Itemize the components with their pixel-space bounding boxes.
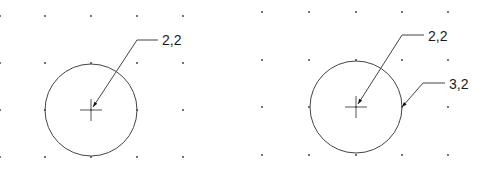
grid-dot <box>182 109 184 111</box>
cad-drawing-canvas: 2,2 2,2 3,2 <box>0 0 481 195</box>
grid-dot <box>401 59 403 61</box>
grid-dot <box>0 62 1 64</box>
leader-label-left-2-2: 2,2 <box>162 32 182 48</box>
grid-dot <box>401 11 403 13</box>
leader-right-2-2[interactable]: 2,2 <box>358 28 448 104</box>
grid-dot <box>136 62 138 64</box>
grid-dot <box>182 156 184 158</box>
grid-dot <box>308 59 310 61</box>
center-mark-left-icon <box>80 99 102 121</box>
grid-dot <box>136 156 138 158</box>
grid-dot <box>447 59 449 61</box>
drawing-svg: 2,2 2,2 3,2 <box>0 0 481 195</box>
left-panel: 2,2 <box>0 15 184 158</box>
center-mark-right-icon <box>345 96 367 118</box>
grid-dot <box>44 156 46 158</box>
right-panel: 2,2 3,2 <box>261 11 469 156</box>
grid-dot <box>44 15 46 17</box>
grid-dot <box>447 106 449 108</box>
grid-dot <box>90 15 92 17</box>
grid-dot <box>401 154 403 156</box>
grid-dot <box>136 15 138 17</box>
grid-dot <box>261 106 263 108</box>
grid-dot <box>44 62 46 64</box>
snap-grid-right <box>261 11 449 156</box>
grid-dot <box>0 156 1 158</box>
grid-dot <box>447 154 449 156</box>
grid-dot <box>0 109 1 111</box>
grid-dot <box>308 11 310 13</box>
grid-dot <box>182 15 184 17</box>
snap-grid-left <box>0 15 184 158</box>
leader-right-3-2[interactable]: 3,2 <box>402 76 469 107</box>
grid-dot <box>355 11 357 13</box>
grid-dot <box>261 59 263 61</box>
grid-dot <box>308 154 310 156</box>
grid-dot <box>261 11 263 13</box>
leader-label-right-2-2: 2,2 <box>428 28 448 44</box>
leader-label-right-3-2: 3,2 <box>449 76 469 92</box>
grid-dot <box>447 11 449 13</box>
grid-dot <box>0 15 1 17</box>
leader-left-2-2[interactable]: 2,2 <box>93 32 182 107</box>
grid-dot <box>182 62 184 64</box>
grid-dot <box>355 154 357 156</box>
grid-dot <box>261 154 263 156</box>
